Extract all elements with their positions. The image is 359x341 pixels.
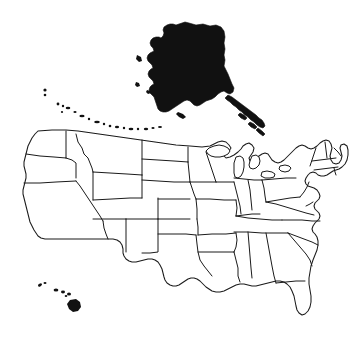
aleutian-dot-13: [115, 126, 119, 128]
hawaii-lanai: [65, 295, 68, 297]
alaska-island-kodiak: [176, 112, 186, 119]
us-map-figure: Map of the United States: [0, 0, 359, 341]
aleutian-dot-11: [103, 123, 105, 125]
lake-erie: [261, 171, 275, 178]
aleutian-dot-16: [137, 128, 139, 130]
aleutian-dot-18: [151, 127, 154, 129]
aleutian-dot-8: [79, 115, 84, 117]
aleutian-dot-3: [57, 103, 60, 106]
alaska-shape: [147, 22, 234, 112]
aleutian-dot-14: [123, 127, 125, 129]
aleutian-dot-6: [61, 111, 63, 113]
region-hawaii: [37, 282, 81, 312]
hawaii-maui: [67, 293, 71, 296]
hawaii-niihau: [37, 283, 42, 287]
contiguous-us-outline: [23, 130, 348, 315]
region-aleutian-islands: [43, 88, 162, 130]
region-contiguous-us: [23, 130, 348, 315]
aleutian-dot-12: [109, 125, 112, 128]
aleutian-dot-4: [62, 105, 64, 107]
alaska-island-small-2: [135, 82, 140, 87]
lake-ontario: [279, 165, 291, 172]
aleutian-dot-17: [144, 128, 148, 130]
hawaii-molokai: [61, 291, 65, 294]
aleutian-dot-1: [43, 88, 46, 91]
aleutian-dot-2: [44, 94, 47, 97]
hawaii-big-island: [67, 299, 81, 312]
aleutian-dot-19: [158, 126, 162, 128]
us-map-svg: Map of the United States: [0, 0, 359, 341]
aleutian-dot-5: [66, 107, 71, 110]
region-alaska: [135, 22, 265, 136]
alaska-panhandle: [225, 95, 265, 128]
hawaii-oahu: [54, 288, 59, 291]
aleutian-dot-7: [73, 111, 76, 113]
alaska-island-small-1: [136, 55, 142, 62]
hawaii-kauai: [44, 282, 47, 284]
aleutian-dot-15: [129, 128, 134, 130]
aleutian-dot-10: [94, 121, 100, 124]
alaska-panhandle-isle-3: [256, 128, 265, 136]
aleutian-dot-9: [88, 118, 90, 120]
